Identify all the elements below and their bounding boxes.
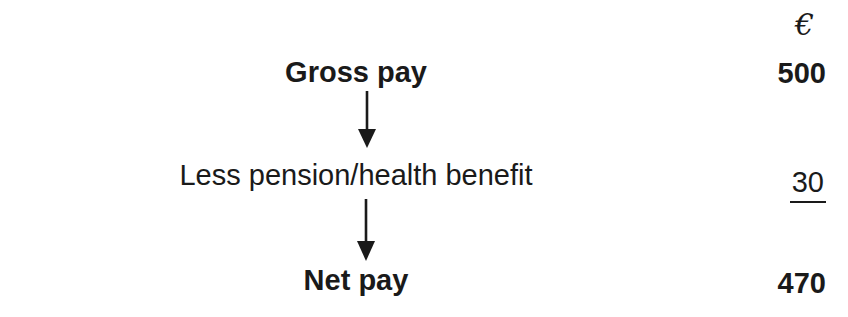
deduction-label: Less pension/health benefit — [179, 160, 532, 192]
gross-pay-label: Gross pay — [285, 57, 427, 89]
down-arrow-icon — [355, 199, 377, 261]
pay-calculation-diagram: € Gross pay 500 Less pension/health bene… — [0, 0, 848, 317]
down-arrow-icon — [356, 90, 378, 148]
net-pay-value: 470 — [778, 268, 826, 300]
currency-symbol: € — [795, 8, 814, 41]
net-pay-label: Net pay — [304, 265, 409, 297]
gross-pay-value: 500 — [778, 58, 826, 90]
deduction-value: 30 — [790, 167, 826, 203]
